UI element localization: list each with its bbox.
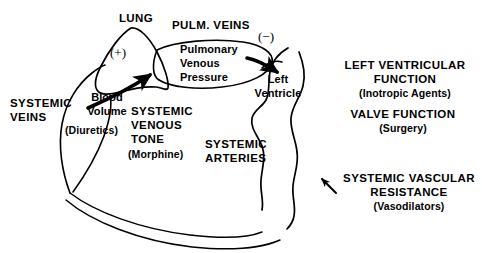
label-systemic-veins-line1: SYSTEMIC — [10, 97, 72, 109]
label-blood-volume-line1: Blood — [84, 92, 130, 104]
systemic-arteries-outer-wall — [287, 152, 297, 229]
left-ventricle-outline-right — [291, 52, 304, 152]
diagram-canvas: LUNG PULM. VEINS (+) (−) Pulmonary Venou… — [0, 0, 482, 253]
label-pulmonary-venous-pressure-line3: Pressure — [180, 72, 228, 84]
label-inotropic-agents: (Inotropic Agents) — [330, 88, 480, 99]
label-svr-line2: RESISTANCE — [336, 186, 482, 198]
label-left-ventricle-line2: Ventricle — [247, 88, 309, 100]
label-systemic-veins-line2: VEINS — [10, 111, 47, 123]
label-systemic-venous-tone-line1: SYSTEMIC — [131, 105, 193, 117]
label-blood-volume-line2: Volume — [80, 106, 134, 118]
label-minus-sign: (−) — [258, 30, 274, 44]
label-valve-function: VALVE FUNCTION — [328, 108, 478, 120]
systemic-circuit-bottom-inner — [70, 193, 262, 237]
label-diuretics: (Diuretics) — [65, 125, 118, 136]
lung-outline — [96, 28, 169, 94]
systemic-circuit-bottom-outer — [66, 200, 280, 249]
label-surgery: (Surgery) — [328, 123, 478, 134]
label-vasodilators: (Vasodilators) — [336, 201, 482, 212]
label-lv-function-line1: LEFT VENTRICULAR — [330, 59, 480, 71]
label-pulm-veins: PULM. VEINS — [172, 19, 250, 31]
label-systemic-venous-tone-line2: VENOUS — [131, 119, 182, 131]
label-lung: LUNG — [104, 12, 168, 24]
label-systemic-arteries-line1: SYSTEMIC — [205, 138, 267, 150]
label-plus-sign: (+) — [110, 46, 126, 60]
label-svr-line1: SYSTEMIC VASCULAR — [336, 172, 482, 184]
label-systemic-arteries-line2: ARTERIES — [205, 152, 266, 164]
label-left-ventricle-line1: Left — [255, 74, 301, 86]
svr-pointer-arrow — [322, 179, 336, 193]
label-morphine: (Morphine) — [128, 149, 183, 160]
label-pulmonary-venous-pressure-line2: Venous — [180, 58, 220, 70]
label-systemic-venous-tone-line3: TONE — [131, 133, 164, 145]
label-lv-function-line2: FUNCTION — [330, 73, 480, 85]
label-pulmonary-venous-pressure-line1: Pulmonary — [180, 44, 238, 56]
